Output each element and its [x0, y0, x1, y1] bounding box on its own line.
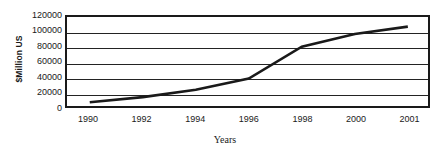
y-axis-tick-label: 120000	[0, 11, 62, 20]
y-axis-tick-label-group: 020000400006000080000100000120000	[0, 0, 62, 160]
y-axis-tick-label: 20000	[0, 88, 62, 97]
x-axis-tick-label: 2001	[387, 114, 433, 124]
line-chart-figure: $Million US 0200004000060000800001000001…	[0, 0, 440, 160]
y-axis-tick-label: 0	[0, 104, 62, 113]
y-axis-tick-label: 60000	[0, 57, 62, 66]
x-axis-tick-label: 2000	[333, 114, 379, 124]
y-axis-tick-label: 40000	[0, 73, 62, 82]
x-axis-tick-label: 1990	[65, 114, 111, 124]
y-axis-tick-label: 100000	[0, 26, 62, 35]
x-axis-tick-label: 1996	[226, 114, 272, 124]
x-axis-tick-label: 1994	[172, 114, 218, 124]
x-axis-tick-label-group: 1990199219941996199820002001	[0, 114, 440, 128]
plot-area	[65, 15, 430, 108]
x-axis-title: Years	[65, 134, 385, 145]
y-axis-tick-label: 80000	[0, 42, 62, 51]
x-axis-tick-label: 1998	[279, 114, 325, 124]
x-axis-tick-label: 1992	[119, 114, 165, 124]
data-series-line	[67, 17, 428, 106]
